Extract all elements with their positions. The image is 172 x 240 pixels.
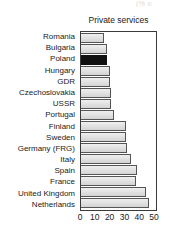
bar-row [81,143,156,153]
bar [81,33,104,43]
bar [81,88,111,98]
category-label: United Kingdom [0,188,78,199]
category-label: France [0,176,78,187]
bar-row [81,176,156,186]
bar [81,176,136,186]
chart-figure: (% o Private services RomaniaBulgariaPol… [0,0,172,240]
plot-area [80,31,157,211]
category-label: GDR [0,76,78,87]
bar-row [81,110,156,120]
bar-row [81,77,156,87]
value-tick-label: 20 [105,212,114,223]
bar [81,143,127,153]
bar [81,77,110,87]
bar [81,187,146,197]
bar [81,99,111,109]
category-label: Romania [0,31,78,42]
bar [81,66,110,76]
category-label: Sweden [0,132,78,143]
value-axis-ticks: 01020304050 [80,212,157,224]
bar-row [81,66,156,76]
bar [81,44,107,54]
category-label: Czechoslovakia [0,87,78,98]
category-label: Hungary [0,65,78,76]
bar-series [81,32,156,210]
category-label: Poland [0,53,78,64]
cropped-text-fragment: (% o [136,0,170,7]
category-label: Spain [0,165,78,176]
bar [81,132,126,142]
value-tick-label: 0 [78,212,83,223]
category-label: Italy [0,154,78,165]
bar-row [81,154,156,164]
category-label: Netherlands [0,199,78,210]
bar [81,165,137,175]
bar [81,198,149,208]
value-tick-label: 50 [149,212,158,223]
category-label: Finland [0,121,78,132]
bar-row [81,55,156,65]
bar-row [81,44,156,54]
bar-row [81,88,156,98]
category-axis-labels: RomaniaBulgariaPolandHungaryGDRCzechoslo… [0,31,78,210]
bar-row [81,165,156,175]
chart-title: Private services [80,15,157,25]
bar-row [81,99,156,109]
bar-row [81,187,156,197]
category-label: Germany (FRG) [0,143,78,154]
bar [81,121,126,131]
bar-row [81,198,156,208]
category-label: USSR [0,98,78,109]
bar-row [81,132,156,142]
value-tick-label: 30 [120,212,129,223]
category-label: Bulgaria [0,42,78,53]
bar [81,154,131,164]
bar-row [81,121,156,131]
value-tick-label: 10 [90,212,99,223]
category-label: Portugal [0,109,78,120]
value-tick-label: 40 [134,212,143,223]
bar [81,55,107,65]
bar [81,110,114,120]
bar-row [81,33,156,43]
